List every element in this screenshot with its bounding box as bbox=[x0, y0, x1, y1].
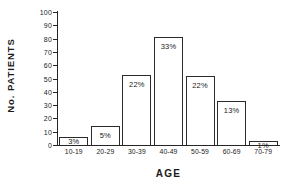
x-axis-tick-label: 40-49 bbox=[153, 148, 185, 155]
bar[interactable]: 33% bbox=[154, 37, 183, 145]
bar[interactable]: 3% bbox=[59, 137, 88, 145]
x-axis-tick-label: 60-69 bbox=[216, 148, 248, 155]
y-axis-tick-label: 20 bbox=[44, 115, 52, 122]
x-axis-tick-label: 50-59 bbox=[184, 148, 216, 155]
y-axis-tick-label: 30 bbox=[44, 102, 52, 109]
y-axis-tick-label: 10 bbox=[44, 128, 52, 135]
bar-percent-label: 13% bbox=[218, 106, 245, 115]
bar-percent-label: 3% bbox=[60, 137, 87, 146]
bar-percent-label: 22% bbox=[187, 81, 214, 90]
bar-percent-label: 22% bbox=[123, 80, 150, 89]
x-axis-tick-label: 10-19 bbox=[58, 148, 90, 155]
bar[interactable]: 5% bbox=[91, 126, 120, 145]
bar-percent-label: 5% bbox=[92, 131, 119, 140]
bar[interactable]: 13% bbox=[217, 101, 246, 145]
y-axis-tick-label: 100 bbox=[40, 9, 52, 16]
x-axis-tick-labels: 10-1920-2930-3940-4950-5960-6970-79 bbox=[58, 148, 279, 160]
plot-area: 0102030405060708090100 3%5%22%33%22%13%1… bbox=[0, 0, 287, 191]
histogram-figure: No. PATIENTS 0102030405060708090100 3%5%… bbox=[0, 0, 287, 191]
x-axis-tick-label: 20-29 bbox=[90, 148, 122, 155]
bar-percent-label: 33% bbox=[155, 42, 182, 51]
y-axis-tick-label: 70 bbox=[44, 48, 52, 55]
y-axis-tick-label: 60 bbox=[44, 62, 52, 69]
y-axis-tick-label: 50 bbox=[44, 75, 52, 82]
y-axis-tick-label: 40 bbox=[44, 88, 52, 95]
bar[interactable]: 22% bbox=[186, 76, 215, 145]
x-axis-tick-label: 70-79 bbox=[247, 148, 279, 155]
y-axis-tick-label: 80 bbox=[44, 35, 52, 42]
y-axis-tick-label: 90 bbox=[44, 22, 52, 29]
bar-series: 3%5%22%33%22%13%1% bbox=[58, 12, 279, 145]
y-axis-tick-labels: 0102030405060708090100 bbox=[24, 12, 52, 145]
bar[interactable]: 1% bbox=[249, 141, 278, 145]
x-axis-title: AGE bbox=[58, 168, 279, 179]
x-axis-tick-label: 30-39 bbox=[121, 148, 153, 155]
x-axis-line bbox=[57, 145, 280, 146]
bar[interactable]: 22% bbox=[122, 75, 151, 145]
